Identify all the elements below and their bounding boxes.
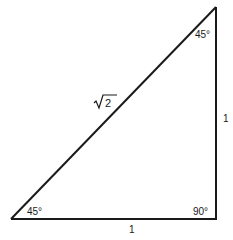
angle-label-bottom-right: 90° [193, 206, 208, 217]
vertical-side-label: 1 [223, 113, 229, 124]
triangle-diagram: 45° 45° 90° 2 1 1 [0, 0, 233, 240]
hypotenuse-label: 2 [94, 95, 117, 109]
triangle-svg: 45° 45° 90° 2 1 1 [0, 0, 233, 240]
hypotenuse-line [11, 7, 216, 219]
angle-label-bottom-left: 45° [27, 206, 42, 217]
horizontal-side-label: 1 [129, 224, 135, 235]
angle-label-top: 45° [195, 29, 210, 40]
hypotenuse-value: 2 [105, 97, 111, 109]
